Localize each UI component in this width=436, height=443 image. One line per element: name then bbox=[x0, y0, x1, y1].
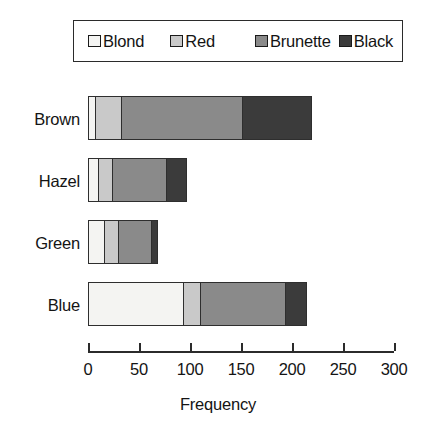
bar-blue bbox=[88, 282, 307, 326]
x-tick-150 bbox=[241, 343, 243, 351]
bar-segment-green-red bbox=[105, 221, 119, 263]
category-axis-labels: Brown Hazel Green Blue bbox=[0, 96, 80, 342]
x-tick-label-250: 250 bbox=[330, 360, 357, 379]
category-label-green: Green bbox=[6, 234, 80, 253]
legend-entries: Blond Red Brunette Black bbox=[74, 21, 402, 61]
x-tick-label-300: 300 bbox=[381, 360, 408, 379]
x-tick-300 bbox=[394, 343, 396, 351]
bar-segment-brown-red bbox=[96, 97, 122, 139]
bar-segment-blue-blond bbox=[89, 283, 184, 325]
legend-entry-blond: Blond bbox=[88, 32, 144, 51]
x-axis-line bbox=[88, 351, 394, 353]
bar-segment-green-blond bbox=[89, 221, 105, 263]
x-tick-label-100: 100 bbox=[177, 360, 204, 379]
bar-segment-brown-black bbox=[243, 97, 312, 139]
legend-label-red: Red bbox=[185, 32, 215, 51]
bar-segment-green-black bbox=[152, 221, 157, 263]
legend-entry-black: Black bbox=[339, 32, 393, 51]
x-tick-label-50: 50 bbox=[130, 360, 148, 379]
x-tick-50 bbox=[139, 343, 141, 351]
x-tick-label-200: 200 bbox=[279, 360, 306, 379]
legend-label-brunette: Brunette bbox=[270, 32, 331, 51]
bar-segment-blue-black bbox=[286, 283, 306, 325]
bar-segment-blue-brunette bbox=[201, 283, 286, 325]
x-tick-label-150: 150 bbox=[228, 360, 255, 379]
legend-label-black: Black bbox=[354, 32, 393, 51]
legend-entry-red: Red bbox=[170, 32, 215, 51]
bar-segment-hazel-brunette bbox=[113, 159, 167, 201]
x-tick-label-0: 0 bbox=[84, 360, 93, 379]
legend-swatch-red bbox=[170, 35, 183, 47]
bar-segment-blue-red bbox=[184, 283, 201, 325]
bar-segment-hazel-black bbox=[167, 159, 186, 201]
plot-area bbox=[88, 96, 394, 342]
x-tick-100 bbox=[190, 343, 192, 351]
category-label-brown: Brown bbox=[6, 110, 80, 129]
bar-segment-hazel-red bbox=[99, 159, 113, 201]
stacked-bar-chart: Blond Red Brunette Black Brown Hazel Gre… bbox=[0, 0, 436, 443]
legend-swatch-brunette bbox=[255, 35, 268, 47]
bar-segment-green-brunette bbox=[119, 221, 153, 263]
x-tick-200 bbox=[292, 343, 294, 351]
legend-swatch-blond bbox=[88, 35, 101, 47]
bar-segment-brown-brunette bbox=[122, 97, 242, 139]
legend-swatch-black bbox=[339, 35, 352, 47]
x-axis-title: Frequency bbox=[0, 395, 436, 414]
bar-green bbox=[88, 220, 158, 264]
x-tick-0 bbox=[88, 343, 90, 351]
bar-brown bbox=[88, 96, 312, 140]
bar-segment-brown-blond bbox=[89, 97, 96, 139]
legend-entry-brunette: Brunette bbox=[255, 32, 331, 51]
category-label-blue: Blue bbox=[6, 296, 80, 315]
bar-hazel bbox=[88, 158, 187, 202]
category-label-hazel: Hazel bbox=[6, 172, 80, 191]
bar-segment-hazel-blond bbox=[89, 159, 99, 201]
legend-label-blond: Blond bbox=[103, 32, 144, 51]
chart-legend: Blond Red Brunette Black bbox=[73, 20, 403, 62]
x-tick-250 bbox=[343, 343, 345, 351]
